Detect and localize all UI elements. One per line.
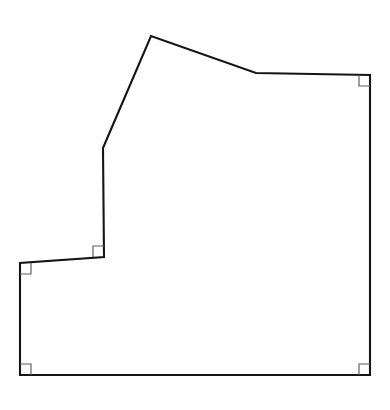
polygon-figure-canvas (0, 0, 390, 410)
